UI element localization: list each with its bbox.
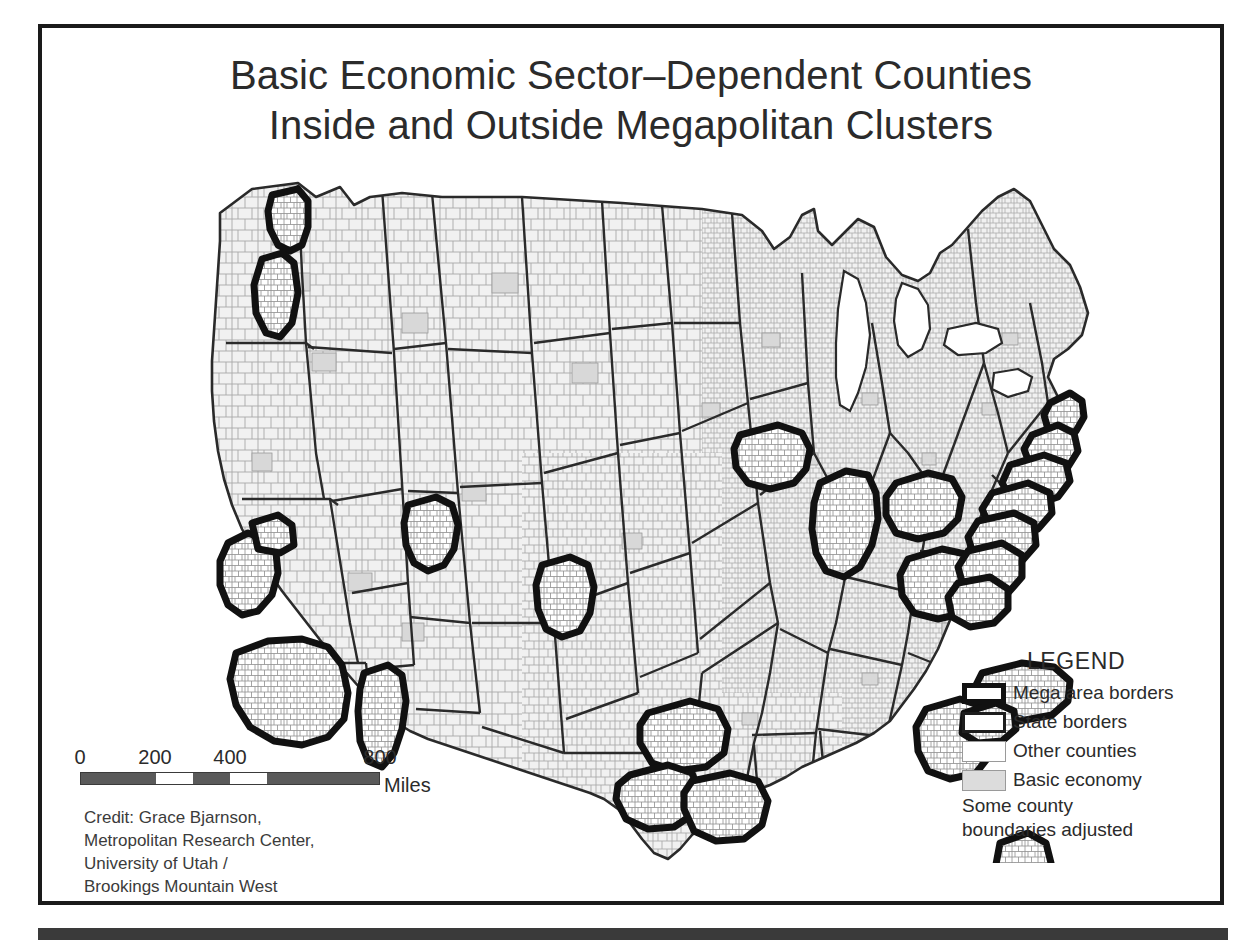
map-poster-frame: Basic Economic Sector–Dependent Counties… [38,24,1224,905]
scale-segment-1 [81,773,156,784]
scale-segment-4 [230,773,267,784]
bottom-accent-bar [38,928,1228,940]
scale-tick-400: 400 [213,746,246,769]
legend-label-mega-area-borders: Mega area borders [1013,682,1174,704]
scale-segment-3 [193,773,230,784]
scale-unit-label: Miles [384,774,431,797]
legend-note-line-2: boundaries adjusted [962,818,1212,842]
legend-label-basic-economy: Basic economy [1013,769,1142,791]
scale-bar-labels: 0 200 400 800 [58,746,418,770]
legend-note: Some county boundaries adjusted [962,794,1212,842]
scale-tick-200: 200 [138,746,171,769]
legend-label-other-counties: Other counties [1013,740,1137,762]
scale-tick-0: 0 [74,746,85,769]
mega-area-puget-sound [268,189,308,251]
credit-line-1: Credit: Grace Bjarnson, [84,806,315,829]
title-line-1: Basic Economic Sector–Dependent Counties [42,50,1220,100]
legend-note-line-1: Some county [962,794,1212,818]
credit-block: Credit: Grace Bjarnson, Metropolitan Res… [84,806,315,898]
title-line-2: Inside and Outside Megapolitan Clusters [42,100,1220,150]
legend-item-mega-area-borders: Mega area borders [962,682,1212,704]
mega-area-detroit [886,473,962,539]
mega-area-houston [684,773,768,841]
legend-title: LEGEND [940,648,1212,675]
mega-area-virginia [948,577,1008,627]
mega-area-willamette [254,253,298,337]
legend-swatch-other-counties-icon [962,741,1006,762]
scale-segment-5 [267,773,379,784]
legend-item-state-borders: State borders [962,711,1212,733]
scale-bar: 0 200 400 800 Miles [58,746,418,806]
page-title: Basic Economic Sector–Dependent Counties… [42,50,1220,150]
legend-swatch-basic-economy-icon [962,770,1006,791]
legend-swatch-mega-border-icon [962,683,1006,704]
legend-item-other-counties: Other counties [962,740,1212,762]
legend-label-state-borders: State borders [1013,711,1127,733]
mega-area-sacramento [252,515,294,553]
credit-line-4: Brookings Mountain West [84,875,315,898]
scale-bar-graphic [80,772,380,785]
legend-swatch-state-border-icon [962,712,1006,733]
legend: LEGEND Mega area borders State borders O… [962,648,1212,842]
legend-item-basic-economy: Basic economy [962,769,1212,791]
credit-line-3: University of Utah / [84,852,315,875]
credit-line-2: Metropolitan Research Center, [84,829,315,852]
mega-area-front-range [536,557,594,637]
mega-area-wasatch-front [404,497,458,571]
mega-area-twin-cities [734,425,810,489]
scale-segment-2 [156,773,193,784]
mega-area-southern-california [230,639,348,745]
scale-tick-800: 800 [363,746,396,769]
mega-area-dallas-fort-worth [640,701,728,771]
